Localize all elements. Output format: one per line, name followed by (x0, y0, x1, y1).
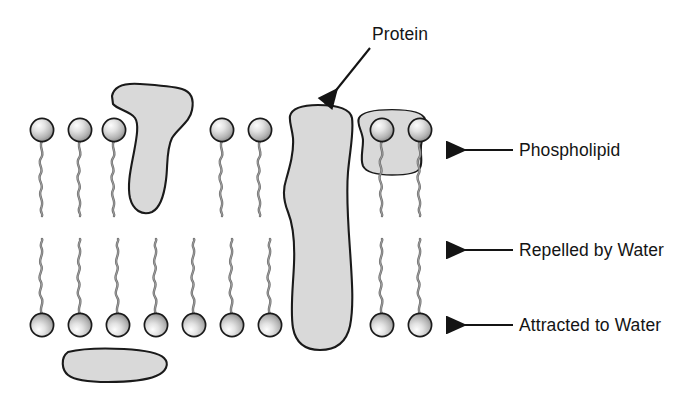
phospholipid-bilayer-diagram (0, 0, 694, 398)
label-protein: Protein (372, 24, 428, 45)
peripheral-protein-lower-left (63, 348, 167, 382)
label-attracted-to-water: Attracted to Water (519, 315, 661, 336)
label-repelled-by-water: Repelled by Water (519, 240, 664, 261)
transmembrane-protein (284, 105, 353, 350)
label-phospholipid: Phospholipid (519, 140, 620, 161)
